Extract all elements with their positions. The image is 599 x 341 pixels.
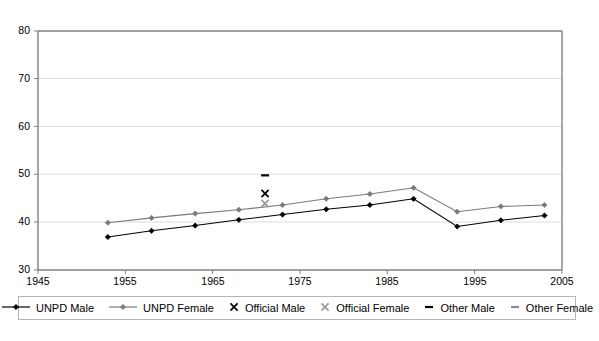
- legend-dash-icon: [423, 301, 435, 315]
- y-tick-label: 70: [4, 73, 30, 84]
- data-point-marker: [455, 224, 460, 229]
- legend-item-other-male[interactable]: Other Male: [423, 301, 494, 315]
- legend-item-other-female[interactable]: Other Female: [509, 301, 593, 315]
- data-point-marker: [105, 234, 110, 239]
- legend-x-icon: [228, 301, 240, 315]
- legend-item-label: Other Male: [440, 302, 494, 314]
- chart-container: 80 70 60 50 40 30 1945 1955 1965 1975 19…: [0, 0, 599, 341]
- legend-x-icon: [319, 301, 331, 315]
- legend-item-label: Official Female: [336, 302, 409, 314]
- series-line: [108, 199, 545, 237]
- x-tick-label: 1995: [455, 276, 495, 287]
- x-tick-label: 1965: [193, 276, 233, 287]
- chart-plot-area: [0, 0, 599, 341]
- data-point-marker: [193, 223, 198, 228]
- y-tick-label: 60: [4, 121, 30, 132]
- series-unpd-male: [105, 196, 547, 239]
- legend-item-label: UNPD Male: [36, 302, 94, 314]
- series-line: [108, 188, 545, 223]
- y-tick-label: 30: [4, 264, 30, 275]
- legend-item-label: UNPD Female: [143, 302, 214, 314]
- legend-marker: [322, 303, 329, 310]
- data-point-marker: [149, 215, 154, 220]
- data-point-marker: [542, 202, 547, 207]
- y-tick-label: 40: [4, 216, 30, 227]
- data-point-marker: [280, 202, 285, 207]
- data-point-marker: [261, 190, 268, 197]
- data-point-marker: [324, 196, 329, 201]
- legend-line-diamond-icon: [1, 301, 31, 315]
- plot-frame: [38, 31, 562, 270]
- x-tick-label: 1945: [18, 276, 58, 287]
- data-point-marker: [498, 204, 503, 209]
- data-point-marker: [261, 200, 268, 207]
- data-point-marker: [367, 202, 372, 207]
- legend-item-official-female[interactable]: Official Female: [319, 301, 409, 315]
- legend-marker: [120, 304, 125, 309]
- data-point-marker: [411, 196, 416, 201]
- gridlines: [38, 79, 562, 222]
- data-point-marker: [193, 211, 198, 216]
- data-point-marker: [149, 228, 154, 233]
- data-point-marker: [324, 207, 329, 212]
- series-official-male: [261, 190, 268, 197]
- data-series-layer: [105, 175, 547, 239]
- data-point-marker: [236, 207, 241, 212]
- data-point-marker: [367, 191, 372, 196]
- data-point-marker: [105, 220, 110, 225]
- series-official-female: [261, 200, 268, 207]
- legend-item-unpd-female[interactable]: UNPD Female: [108, 301, 214, 315]
- legend-line-diamond-icon: [108, 301, 138, 315]
- data-point-marker: [542, 213, 547, 218]
- y-tick-label: 80: [4, 25, 30, 36]
- legend-dash-icon: [509, 301, 521, 315]
- data-point-marker: [411, 185, 416, 190]
- y-tick-label: 50: [4, 168, 30, 179]
- x-tick-label: 1985: [367, 276, 407, 287]
- legend-item-unpd-male[interactable]: UNPD Male: [1, 301, 94, 315]
- x-tick-label: 2005: [542, 276, 582, 287]
- legend-item-official-male[interactable]: Official Male: [228, 301, 305, 315]
- legend-marker: [13, 304, 18, 309]
- x-tick-label: 1955: [105, 276, 145, 287]
- legend-marker: [230, 303, 237, 310]
- legend-item-label: Other Female: [526, 302, 593, 314]
- chart-legend: UNPD MaleUNPD FemaleOfficial MaleOfficia…: [18, 296, 576, 320]
- series-unpd-female: [105, 185, 547, 225]
- data-point-marker: [280, 212, 285, 217]
- data-point-marker: [455, 209, 460, 214]
- legend-item-label: Official Male: [245, 302, 305, 314]
- x-tick-label: 1975: [280, 276, 320, 287]
